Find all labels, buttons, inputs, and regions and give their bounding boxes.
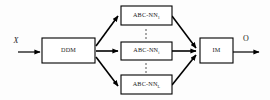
edge-branch-l-to-im <box>172 55 196 85</box>
block-flow-diagram: X O DDM IM ABC-NN1 ABC-NNi ABC-NNL <box>0 0 270 100</box>
node-branch-i-base: ABC-NN <box>133 46 158 53</box>
output-label-o: O <box>243 34 249 43</box>
edge-ddm-to-branch-1 <box>96 16 118 46</box>
diagram-canvas: X O DDM IM ABC-NN1 ABC-NNi ABC-NNL <box>0 0 270 100</box>
node-branch-1-subscript: 1 <box>158 15 160 20</box>
lower-vertical-ellipsis-icon <box>145 63 147 73</box>
node-im-label: IM <box>213 46 221 53</box>
upper-vertical-ellipsis-icon <box>145 29 147 39</box>
node-branch-l-subscript: L <box>158 84 161 89</box>
node-branch-l-label: ABC-NNL <box>133 80 161 88</box>
node-branch-l-base: ABC-NN <box>133 80 158 87</box>
edge-ddm-to-branch-l <box>96 57 118 86</box>
node-branch-i-label: ABC-NNi <box>133 46 160 54</box>
node-ddm-label: DDM <box>61 46 76 53</box>
edge-branch-1-to-im <box>172 16 196 48</box>
node-branch-1-label: ABC-NN1 <box>133 11 160 19</box>
input-label-x: X <box>13 36 20 45</box>
node-branch-1-base: ABC-NN <box>133 11 158 18</box>
